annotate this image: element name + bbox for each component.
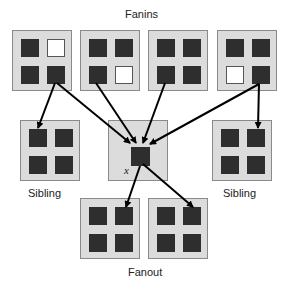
cell-filled [89, 207, 107, 225]
cell-filled [252, 66, 270, 84]
fanout-label: Fanout [128, 266, 162, 278]
cell-filled [21, 66, 39, 84]
cell-filled [55, 129, 73, 147]
cell-empty [115, 66, 133, 84]
fanin-node-3 [148, 30, 208, 91]
center-node-x: x [108, 120, 168, 181]
cell-filled [157, 39, 175, 57]
sibling-node-left [20, 120, 80, 181]
cell-filled [47, 66, 65, 84]
sibling-node-right [212, 120, 272, 181]
cell-filled [21, 39, 39, 57]
cell-filled [29, 129, 47, 147]
cell-filled [157, 66, 175, 84]
sibling-right-label: Sibling [223, 187, 256, 199]
cell-filled [55, 156, 73, 174]
fanout-node-1 [80, 198, 140, 259]
cell-filled [252, 39, 270, 57]
cell-filled [247, 129, 265, 147]
fanin-node-2 [80, 30, 140, 91]
cell-filled [183, 66, 201, 84]
cell-filled [221, 156, 239, 174]
cell-filled [183, 39, 201, 57]
cell-filled [115, 39, 133, 57]
cell-filled [157, 234, 175, 252]
cell-filled [29, 156, 47, 174]
cell-filled [226, 39, 244, 57]
cell-filled [221, 129, 239, 147]
fanins-label: Fanins [125, 8, 158, 20]
cell-empty [47, 39, 65, 57]
cell-filled [247, 156, 265, 174]
sibling-left-label: Sibling [28, 187, 61, 199]
fanin-node-4 [217, 30, 277, 91]
cell-filled [157, 207, 175, 225]
cell-filled [183, 234, 201, 252]
cell-x [131, 147, 150, 166]
cell-filled [115, 207, 133, 225]
cell-filled [89, 234, 107, 252]
fanin-node-1 [12, 30, 72, 91]
x-label: x [124, 164, 129, 176]
cell-empty [226, 66, 244, 84]
cell-filled [115, 234, 133, 252]
cell-filled [89, 66, 107, 84]
cell-filled [183, 207, 201, 225]
cell-filled [89, 39, 107, 57]
fanout-node-2 [148, 198, 208, 259]
